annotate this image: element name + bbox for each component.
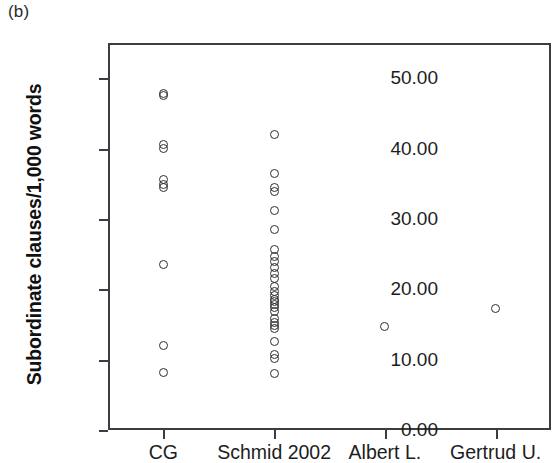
plot-area: 0.0010.0020.0030.0040.0050.00 CGSchmid 2… — [108, 43, 551, 430]
y-tick-mark — [99, 78, 108, 80]
data-point — [159, 183, 168, 192]
y-tick-label: 20.00 — [318, 278, 438, 300]
data-point — [491, 304, 500, 313]
y-tick-label: 40.00 — [318, 138, 438, 160]
data-point — [270, 225, 279, 234]
y-tick-label: 50.00 — [318, 67, 438, 89]
data-point — [270, 206, 279, 215]
y-tick-label: 10.00 — [318, 349, 438, 371]
x-tick-mark — [163, 430, 165, 439]
y-tick-mark — [99, 430, 108, 432]
data-point — [270, 337, 279, 346]
x-tick-mark — [385, 430, 387, 439]
data-point — [270, 324, 279, 333]
x-tick-mark — [496, 430, 498, 439]
data-point — [270, 169, 279, 178]
data-point — [159, 341, 168, 350]
y-tick-label: 30.00 — [318, 208, 438, 230]
data-point — [159, 260, 168, 269]
data-point — [159, 144, 168, 153]
x-tick-label: Gertrud U. — [406, 441, 559, 463]
y-tick-mark — [99, 219, 108, 221]
data-point — [270, 369, 279, 378]
y-tick-mark — [99, 360, 108, 362]
y-tick-label: 0.00 — [318, 419, 438, 441]
data-point — [270, 187, 279, 196]
data-point — [159, 91, 168, 100]
y-tick-mark — [99, 149, 108, 151]
y-tick-mark — [99, 289, 108, 291]
data-point — [270, 354, 279, 363]
data-point — [270, 130, 279, 139]
data-point — [159, 368, 168, 377]
x-tick-mark — [274, 430, 276, 439]
panel-label: (b) — [8, 2, 29, 22]
y-axis-title: Subordinate clauses/1,000 words — [23, 55, 46, 415]
data-point — [380, 322, 389, 331]
